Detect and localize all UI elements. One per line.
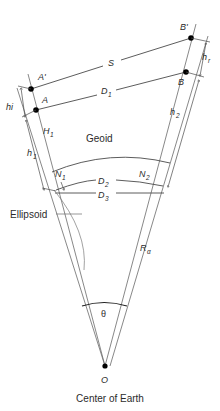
label-instrument-height-hi: hi <box>6 102 14 112</box>
distance-d1-line-right <box>116 72 186 90</box>
label-central-angle-theta: θ <box>101 309 106 319</box>
label-ellipsoid-distance-D3: D 3 <box>98 190 109 202</box>
label-point-O: O <box>101 375 108 385</box>
radial-right-main <box>105 24 196 366</box>
label-h2-symbol: h <box>170 107 175 117</box>
geoid-surface <box>52 157 170 172</box>
label-H1-subscript: 1 <box>50 131 54 138</box>
undulation-markers <box>61 182 64 190</box>
label-point-B: B <box>178 77 184 87</box>
dimension-ellipsoid-height-2 <box>168 80 199 187</box>
radial-right-outer <box>110 36 208 366</box>
label-D3-subscript: 3 <box>105 195 109 202</box>
slope-distance-line-right <box>121 38 191 60</box>
d2-chord <box>56 180 163 190</box>
label-D3-symbol: D <box>98 190 105 200</box>
label-h1-subscript: 1 <box>33 153 37 160</box>
hr-ext-bottom <box>186 72 204 77</box>
label-h2-subscript: 2 <box>175 112 180 119</box>
label-N1-symbol: N <box>55 169 62 179</box>
label-undulation-N1: N 1 <box>55 169 66 181</box>
label-ellipsoid-height-h1: h 1 <box>27 148 37 160</box>
point-O-dot <box>102 363 107 368</box>
label-geoid: Geoid <box>86 133 113 144</box>
label-distance-D1: D 1 <box>101 86 112 98</box>
geoid-curve <box>52 157 170 172</box>
earth-center-marker <box>102 363 107 368</box>
label-distance-D1-symbol: D <box>101 86 108 96</box>
label-hr-symbol: h <box>202 52 207 62</box>
label-geoid-distance-D2: D 2 <box>98 176 109 188</box>
radial-left-outer <box>17 88 105 366</box>
label-undulation-N2: N 2 <box>139 169 150 181</box>
label-H1-symbol: H <box>43 126 50 136</box>
label-D2-symbol: D <box>98 176 105 186</box>
label-D2-subscript: 2 <box>104 181 109 188</box>
label-N1-subscript: 1 <box>62 174 66 181</box>
label-h1-symbol: h <box>27 148 32 158</box>
label-reflector-height-hr: h r <box>202 52 211 64</box>
label-point-A-prime: A' <box>37 72 46 82</box>
measured-lines <box>31 38 191 110</box>
label-point-B-prime: B' <box>180 22 188 32</box>
label-point-A: A <box>41 95 48 105</box>
dimension-instrument-height <box>18 86 36 117</box>
label-ellipsoid: Ellipsoid <box>10 209 47 220</box>
radial-left-main <box>28 74 105 366</box>
n1-tick <box>61 182 64 190</box>
label-distance-D1-subscript: 1 <box>108 91 112 98</box>
geodesy-diagram: A' A B' B O S D 1 hi h r h 1 h 2 H 1 N <box>0 0 220 411</box>
label-R-symbol: R <box>140 243 147 253</box>
label-hr-subscript: r <box>208 57 211 64</box>
label-N2-subscript: 2 <box>145 174 150 181</box>
caption-center-of-earth: Center of Earth <box>76 393 144 404</box>
h2-dim-line <box>168 80 199 187</box>
station-points <box>28 35 194 113</box>
label-N2-symbol: N <box>139 169 146 179</box>
diagram-canvas: A' A B' B O S D 1 hi h r h 1 h 2 H 1 N <box>0 0 220 411</box>
d2-curve-right <box>116 180 163 186</box>
label-earth-radius-R: R α <box>140 243 151 255</box>
label-slope-distance-S: S <box>108 58 114 68</box>
label-R-subscript: α <box>147 248 151 255</box>
